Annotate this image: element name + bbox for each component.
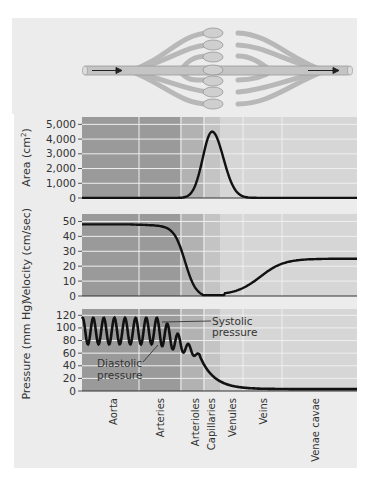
y-tick-label: 100 bbox=[56, 321, 76, 333]
area-chart: 5,0004,0003,0002,0001,0000Area (cm2) bbox=[20, 117, 357, 204]
y-tick-label: 0 bbox=[69, 385, 76, 397]
y-tick-label: 40 bbox=[63, 359, 76, 371]
x-axis-label-venules: Venules bbox=[227, 398, 238, 437]
x-axis-label-veins: Veins bbox=[258, 398, 269, 425]
y-tick-label: 3,000 bbox=[46, 147, 76, 159]
y-axis-label: Area (cm2) bbox=[20, 128, 33, 187]
y-tick-label: 0 bbox=[69, 192, 76, 204]
y-tick-label: 40 bbox=[63, 230, 76, 242]
x-axis-label-aorta: Aorta bbox=[108, 398, 119, 425]
y-tick-label: 2,000 bbox=[46, 162, 76, 174]
x-axis-label-venae-cavae: Venae cavae bbox=[310, 398, 321, 462]
y-tick-label: 10 bbox=[63, 275, 76, 287]
x-axis-label-arteries: Arteries bbox=[155, 398, 166, 437]
y-tick-label: 1,000 bbox=[46, 177, 76, 189]
vessel-diagram bbox=[12, 18, 357, 114]
y-tick-label: 80 bbox=[63, 334, 76, 346]
y-tick-label: 4,000 bbox=[46, 133, 76, 145]
y-tick-label: 30 bbox=[63, 245, 76, 257]
circulation-figure: 5,0004,0003,0002,0001,0000Area (cm2)5040… bbox=[0, 0, 375, 477]
pressure-chart: 120100806040200Pressure (mm Hg) bbox=[20, 300, 357, 399]
y-tick-label: 120 bbox=[56, 309, 76, 321]
y-tick-label: 60 bbox=[63, 347, 76, 359]
y-tick-label: 20 bbox=[63, 372, 76, 384]
diastolic-annotation: Diastolicpressure bbox=[97, 357, 142, 381]
x-axis-label-capillaries: Capillaries bbox=[206, 398, 217, 450]
systolic-annotation: Systolicpressure bbox=[212, 315, 257, 338]
y-tick-label: 20 bbox=[63, 260, 76, 272]
y-tick-label: 5,000 bbox=[46, 118, 76, 130]
y-axis-label: Velocity (cm/sec) bbox=[20, 208, 33, 302]
x-axis-label-arterioles: Arterioles bbox=[190, 398, 201, 446]
y-tick-label: 50 bbox=[63, 215, 76, 227]
y-axis-label: Pressure (mm Hg) bbox=[20, 300, 33, 399]
y-tick-label: 0 bbox=[69, 290, 76, 302]
velocity-chart: 50403020100Velocity (cm/sec) bbox=[20, 208, 357, 302]
